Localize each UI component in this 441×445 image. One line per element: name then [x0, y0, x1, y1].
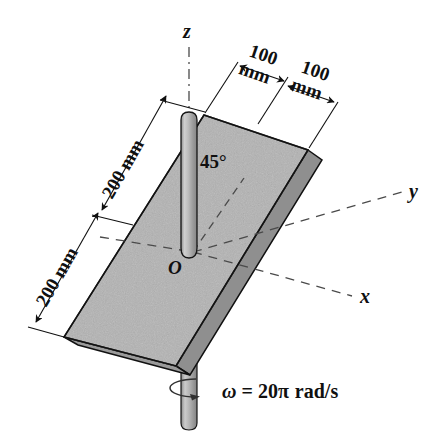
rotating-plate-diagram: O z y x 45° 100 mm 100 mm: [0, 0, 441, 445]
upper-shaft-body: [181, 112, 197, 258]
origin-label: O: [168, 257, 182, 278]
upper-shaft: [181, 112, 197, 258]
omega-equals: =: [241, 380, 252, 402]
omega-magnitude: 20π: [258, 380, 289, 402]
y-axis-label: y: [407, 180, 418, 203]
x-axis-label: x: [359, 285, 370, 307]
origin-marker: O: [168, 257, 182, 278]
angle-45-label: 45°: [200, 151, 227, 172]
omega-units: rad/s: [295, 380, 339, 402]
z-axis-label: z: [182, 20, 191, 42]
omega-symbol: ω: [222, 380, 236, 402]
figure-container: O z y x 45° 100 mm 100 mm: [0, 0, 441, 445]
